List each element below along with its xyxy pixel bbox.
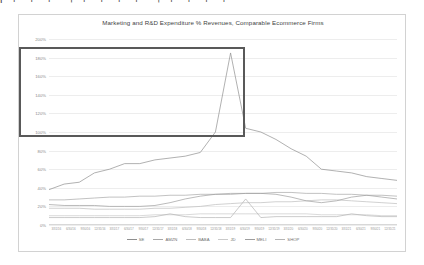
top-cutoff-glyphs: l ⌐ ⌐ ⌐ ¬ ⌐ ⌐ ⌐ ⌐ ¬ ⌐ ⌐ ⌐ ⌐ <box>0 0 234 4</box>
y-axis-tick-label: 200% <box>35 37 46 42</box>
x-axis-tick-label: 9/30/20 <box>310 227 325 237</box>
legend-label: AMZN <box>165 237 177 242</box>
x-axis-tick-label: 3/31/19 <box>223 227 238 237</box>
x-axis-tick-label: 6/30/16 <box>64 227 79 237</box>
y-axis-tick-label: 180% <box>35 55 46 60</box>
y-axis-tick-label: 120% <box>35 111 46 116</box>
x-axis-tick-labels: 3/31/166/30/169/30/1612/31/163/31/176/30… <box>49 227 397 237</box>
legend-item-meli[interactable]: MELI <box>245 237 267 242</box>
y-axis-tick-label: 40% <box>38 185 46 190</box>
x-axis-tick-label: 12/31/19 <box>267 227 282 237</box>
chart-card: Marketing and R&D Expenditure % Revenues… <box>18 14 406 252</box>
legend-swatch-icon <box>127 239 137 240</box>
y-axis-tick-label: 20% <box>38 204 46 209</box>
legend-label: SHOP <box>287 237 299 242</box>
legend-item-shop[interactable]: SHOP <box>275 237 299 242</box>
x-axis-tick-label: 12/31/16 <box>93 227 108 237</box>
series-line-baba <box>49 200 397 209</box>
x-axis-tick-label: 3/31/20 <box>281 227 296 237</box>
y-axis-tick-label: 140% <box>35 92 46 97</box>
legend-item-se[interactable]: SE <box>127 237 145 242</box>
y-axis-tick-label: 0% <box>40 223 46 228</box>
x-axis-tick-label: 3/31/17 <box>107 227 122 237</box>
x-axis-tick-label: 6/30/21 <box>354 227 369 237</box>
series-line-meli <box>49 193 397 206</box>
gridline <box>49 225 397 226</box>
x-axis-tick-label: 6/30/18 <box>180 227 195 237</box>
x-axis-tick-label: 12/31/18 <box>209 227 224 237</box>
legend-swatch-icon <box>153 239 163 240</box>
x-axis-tick-label: 9/30/16 <box>78 227 93 237</box>
x-axis-tick-label: 9/30/21 <box>368 227 383 237</box>
legend-label: BABA <box>198 237 209 242</box>
legend-swatch-icon <box>245 239 255 240</box>
x-axis-tick-label: 12/31/21 <box>383 227 398 237</box>
x-axis-tick-label: 6/30/17 <box>122 227 137 237</box>
legend-swatch-icon <box>186 239 196 240</box>
x-axis-tick-label: 9/30/17 <box>136 227 151 237</box>
chart-legend: SEAMZNBABAJDMELISHOP <box>19 237 407 242</box>
series-lines <box>49 39 397 225</box>
legend-item-jd[interactable]: JD <box>218 237 235 242</box>
series-line-shop <box>49 199 397 218</box>
y-axis-tick-label: 160% <box>35 74 46 79</box>
legend-label: MELI <box>257 237 267 242</box>
x-axis-tick-label: 3/31/18 <box>165 227 180 237</box>
legend-item-baba[interactable]: BABA <box>186 237 209 242</box>
plot-area: 0%20%40%60%80%100%120%140%160%180%200% <box>49 39 397 225</box>
series-line-se <box>49 53 397 190</box>
top-cutoff-text: l ⌐ ⌐ ⌐ ¬ ⌐ ⌐ ⌐ ⌐ ¬ ⌐ ⌐ ⌐ ⌐ <box>0 0 424 12</box>
x-axis-tick-label: 9/30/18 <box>194 227 209 237</box>
x-axis-tick-label: 6/30/20 <box>296 227 311 237</box>
y-axis-tick-label: 60% <box>38 167 46 172</box>
legend-label: SE <box>139 237 145 242</box>
legend-item-amzn[interactable]: AMZN <box>153 237 177 242</box>
x-axis-tick-label: 3/31/16 <box>49 227 64 237</box>
chart-title: Marketing and R&D Expenditure % Revenues… <box>19 19 407 26</box>
x-axis-tick-label: 12/31/17 <box>151 227 166 237</box>
x-axis-tick-label: 3/31/21 <box>339 227 354 237</box>
legend-swatch-icon <box>275 239 285 240</box>
x-axis-tick-label: 9/30/19 <box>252 227 267 237</box>
y-axis-tick-label: 80% <box>38 148 46 153</box>
screenshot-root: l ⌐ ⌐ ⌐ ¬ ⌐ ⌐ ⌐ ⌐ ¬ ⌐ ⌐ ⌐ ⌐ Marketing an… <box>0 0 424 265</box>
legend-label: JD <box>230 237 235 242</box>
x-axis-tick-label: 6/30/19 <box>238 227 253 237</box>
legend-swatch-icon <box>218 239 228 240</box>
x-axis-tick-label: 12/31/20 <box>325 227 340 237</box>
y-axis-tick-label: 100% <box>35 130 46 135</box>
